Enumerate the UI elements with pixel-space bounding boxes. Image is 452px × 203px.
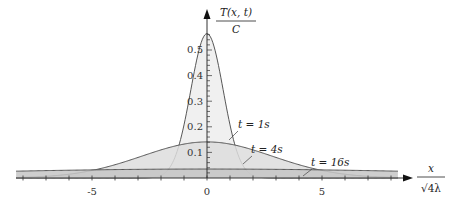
y-tick-label-0-5: 0.5 [187, 44, 203, 55]
x-axis-arrow-icon [403, 175, 413, 182]
y-axis-label-denominator: C [232, 23, 240, 35]
annotation-t1: t = 1s [238, 118, 270, 130]
y-tick-label-0-2: 0.2 [187, 121, 203, 132]
x-tick-label-minus5: -5 [87, 186, 97, 197]
annotation-t4: t = 4s [251, 143, 283, 155]
annotation-t16: t = 16s [311, 156, 350, 168]
x-axis-label-denominator: √4λ [421, 182, 441, 194]
y-tick-label-0-1: 0.1 [187, 147, 203, 158]
x-tick-label-0: 0 [204, 186, 210, 197]
heat-kernel-chart: -5 0 5 0.1 0.2 0.3 0.4 0.5 T(x, t) C x √… [0, 0, 452, 203]
x-axis-label-numerator: x [428, 162, 434, 174]
x-tick-label-5: 5 [319, 186, 325, 197]
y-axis-label-numerator: T(x, t) [220, 6, 252, 18]
y-axis-arrow-icon [204, 9, 211, 19]
y-tick-label-0-4: 0.4 [187, 70, 203, 81]
y-tick-label-0-3: 0.3 [187, 96, 203, 107]
